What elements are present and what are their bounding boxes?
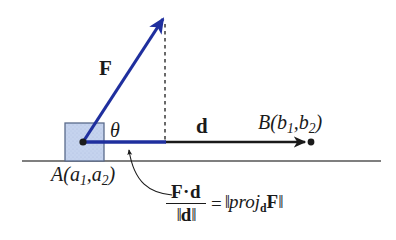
point-b-dot [308, 139, 315, 146]
denominator-variable: d [181, 204, 192, 225]
force-vector-label: F [99, 58, 112, 79]
point-b-mid: ,b [294, 111, 309, 133]
point-b-close: ) [315, 111, 322, 133]
rhs-proj-text: proj [229, 191, 260, 212]
rhs-force-symbol: F [267, 191, 279, 212]
point-b-sub1: 1 [287, 121, 294, 136]
projection-formula: F·d ‖d‖ = ‖projdF‖ [166, 182, 283, 225]
point-a-mid: ,a [87, 163, 102, 185]
vector-projection-figure: F θ d B(b1,b2) A(a1,a2) F·d ‖d‖ = ‖projd… [0, 0, 396, 240]
denominator-bar-close: ‖ [191, 204, 195, 225]
formula-denominator: ‖d‖ [171, 204, 200, 225]
point-b-label: B(b1,b2) [258, 112, 322, 136]
formula-numerator: F·d [166, 182, 206, 203]
point-a-close: ) [108, 163, 115, 185]
formula-equals: = [211, 193, 222, 215]
displacement-vector-label: d [196, 116, 208, 137]
point-a-dot [79, 138, 86, 145]
point-b-text: B(b [258, 111, 287, 133]
force-vector-F [83, 19, 163, 142]
rhs-bar-close: ‖ [278, 191, 282, 212]
angle-theta-label: θ [110, 120, 120, 140]
formula-right-side: ‖projdF‖ [225, 191, 283, 216]
formula-fraction: F·d ‖d‖ [166, 182, 206, 225]
point-a-label: A(a1,a2) [51, 164, 115, 188]
point-a-text: A(a [51, 163, 80, 185]
point-a-sub1: 1 [80, 173, 87, 188]
